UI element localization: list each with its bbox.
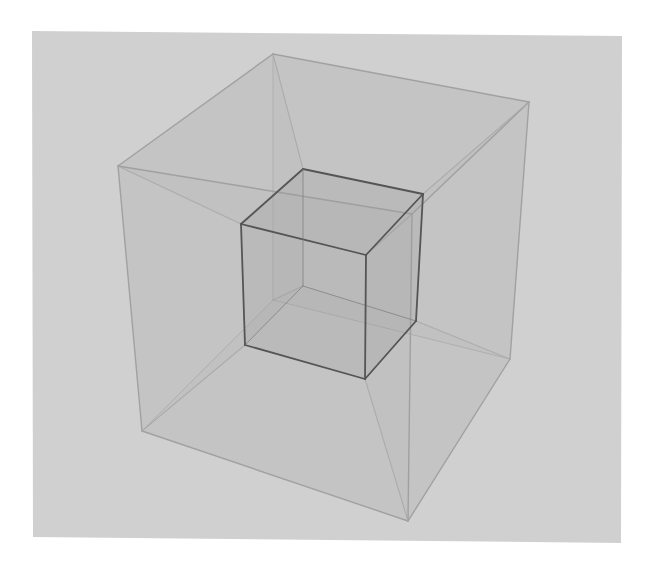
inner-edge-top_front-bottom_front: [365, 255, 366, 379]
tesseract-figure: [0, 0, 654, 570]
tesseract-svg: [0, 0, 654, 570]
